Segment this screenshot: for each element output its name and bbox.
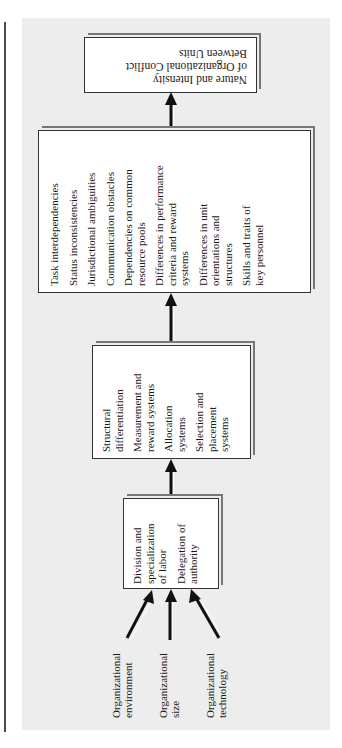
stage3-item: Status inconsistencies [67, 136, 80, 286]
stage3-text: Task interdependencies Status inconsiste… [48, 136, 271, 286]
stage2-text: Structuraldifferentiation Measurement an… [100, 347, 237, 452]
stage1-item: Division andspecializationof labor [131, 499, 169, 584]
arrow-technology [189, 589, 222, 638]
arrow-environment [127, 590, 154, 640]
stage3-item: Jurisdictional ambiguities [85, 136, 98, 286]
arrow-stage1-to-stage2 [165, 459, 177, 497]
input-label-environment: Organizationalenvironment [110, 653, 134, 718]
stage3-item: Differences in performancecriteria and r… [153, 136, 191, 286]
input-label-size: Organizationalsize [157, 653, 181, 718]
stage1-text: Division andspecializationof labor Deleg… [131, 499, 206, 584]
stage2-item: Measurement andreward systems [131, 347, 156, 452]
outcome-line-1: Nature and Intensity [97, 73, 247, 86]
outcome-line-2: of Organizational Conflict [97, 60, 247, 73]
stage1-item: Delegation ofauthority [175, 499, 200, 584]
stage3-item: Task interdependencies [48, 136, 61, 286]
stage2-item: Structuraldifferentiation [100, 347, 125, 452]
stage2-item: Allocationsystems [162, 347, 187, 452]
arrow-size [165, 589, 177, 640]
outcome-text-block: Nature and Intensity of Organizational C… [97, 44, 247, 86]
stage2-item: Selection andplacementsystems [193, 347, 231, 452]
outcome-line-3: Between Units [97, 47, 247, 60]
stage3-item: Skills and traits ofkey personnel [240, 136, 265, 286]
stage3-item: Dependencies on commonresource pools [122, 136, 147, 286]
arrow-stage3-to-outcome [165, 92, 177, 129]
arrow-stage2-to-stage3 [165, 293, 177, 344]
input-label-technology: Organizationaltechnology [204, 653, 228, 718]
stage3-item: Differences in unitorientations andstruc… [197, 136, 235, 286]
stage3-item: Communication obstacles [104, 136, 117, 286]
